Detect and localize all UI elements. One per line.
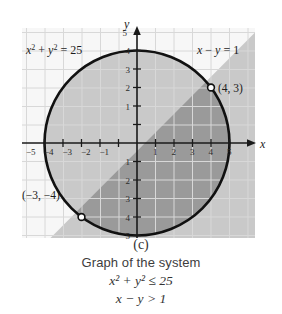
x-tick-label: −3 xyxy=(63,147,73,157)
figure-caption: (c) Graph of the system x² + y² ≤ 25 x −… xyxy=(0,236,282,308)
point-marker-neg3-neg4 xyxy=(78,214,85,221)
y-tick-label: 4 xyxy=(126,46,131,56)
x-tick-label: −2 xyxy=(81,147,91,157)
panel-letter: (c) xyxy=(0,236,282,253)
y-tick-label: 1 xyxy=(126,157,131,167)
figure-panel-c: −5 −4 −3 −2 −1 1 2 3 4 5 5 4 3 2 1 1 2 3… xyxy=(0,0,282,314)
x-tick-label: 4 xyxy=(209,147,214,157)
x-tick-label: −4 xyxy=(44,147,54,157)
line-equation-label: x − y = 1 xyxy=(196,43,239,57)
y-tick-label: 1 xyxy=(126,102,131,112)
y-tick-label: 3 xyxy=(126,65,131,75)
point-marker-4-3 xyxy=(208,84,215,91)
x-tick-label: 2 xyxy=(172,147,177,157)
x-tick-label: 5 xyxy=(227,147,232,157)
caption-title: Graph of the system xyxy=(0,253,282,272)
caption-equation-1: x² + y² ≤ 25 xyxy=(0,272,282,290)
x-tick-label: 3 xyxy=(190,147,195,157)
x-tick-label: −1 xyxy=(100,147,110,157)
x-tick-label: 1 xyxy=(153,147,158,157)
x-tick-label: −5 xyxy=(26,147,36,157)
y-axis-label: y xyxy=(123,17,130,31)
y-tick-label: 4 xyxy=(126,213,131,223)
point-label-lower: (−3, −4) xyxy=(22,189,60,202)
caption-equation-2: x − y > 1 xyxy=(0,290,282,308)
y-tick-label: 3 xyxy=(126,194,131,204)
y-tick-label: 2 xyxy=(126,176,131,186)
point-label-upper: (4, 3) xyxy=(218,82,243,95)
x-axis-label: x xyxy=(259,137,266,151)
y-tick-label: 2 xyxy=(126,83,131,93)
